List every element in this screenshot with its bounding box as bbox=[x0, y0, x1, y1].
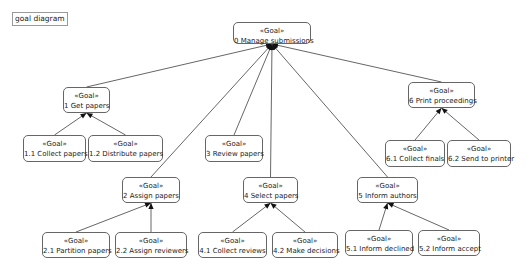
goal-node-2-1[interactable]: «Goal»2.1 Partition papers bbox=[42, 232, 110, 258]
goal-node-6-1[interactable]: «Goal»6.1 Collect finals bbox=[385, 140, 445, 167]
edge-3-to-0 bbox=[234, 44, 272, 135]
goal-node-2-2[interactable]: «Goal»2.2 Assign reviewers bbox=[115, 232, 187, 258]
goal-stereotype: «Goal» bbox=[419, 234, 479, 244]
goal-label: 2.1 Partition papers bbox=[43, 246, 109, 256]
goal-stereotype: «Goal» bbox=[273, 236, 337, 246]
goal-diagram-canvas: goal diagram «Goal»0 Manage submissions«… bbox=[0, 0, 527, 271]
goal-label: 4.1 Collect reviews bbox=[199, 246, 266, 256]
goal-stereotype: «Goal» bbox=[89, 139, 162, 149]
goal-stereotype: «Goal» bbox=[199, 236, 266, 246]
goal-stereotype: «Goal» bbox=[64, 91, 109, 101]
goal-label: 1.1 Collect papers bbox=[24, 149, 85, 159]
goal-stereotype: «Goal» bbox=[448, 144, 510, 154]
edge-4.1-to-4 bbox=[233, 203, 271, 232]
goal-stereotype: «Goal» bbox=[409, 86, 474, 96]
goal-node-2[interactable]: «Goal»2 Assign papers bbox=[122, 177, 180, 203]
goal-stereotype: «Goal» bbox=[43, 236, 109, 246]
edge-6-to-0 bbox=[272, 44, 442, 82]
goal-label: 1 Get papers bbox=[64, 101, 109, 111]
goal-stereotype: «Goal» bbox=[346, 234, 412, 244]
goal-node-1-1[interactable]: «Goal»1.1 Collect papers bbox=[23, 135, 86, 162]
goal-stereotype: «Goal» bbox=[358, 181, 417, 191]
goal-node-6[interactable]: «Goal»6 Print proceedings bbox=[408, 82, 475, 108]
goal-label: 5.1 Inform declined bbox=[346, 244, 412, 254]
edge-6.2-to-6 bbox=[442, 108, 480, 140]
goal-label: 2.2 Assign reviewers bbox=[116, 246, 186, 256]
goal-label: 1.2 Distribute papers bbox=[89, 149, 162, 159]
goal-node-5[interactable]: «Goal»5 Inform authors bbox=[357, 177, 418, 203]
goal-label: 0 Manage submissions bbox=[234, 36, 310, 46]
goal-stereotype: «Goal» bbox=[386, 144, 444, 154]
goal-label: 2 Assign papers bbox=[123, 191, 179, 201]
edge-4.2-to-4 bbox=[271, 203, 306, 232]
goal-stereotype: «Goal» bbox=[234, 26, 310, 36]
goal-label: 5.2 Inform accept bbox=[419, 244, 479, 254]
goal-stereotype: «Goal» bbox=[24, 139, 85, 149]
arrowhead-icon bbox=[80, 113, 86, 119]
diagram-title: goal diagram bbox=[12, 12, 68, 26]
goal-node-3[interactable]: «Goal»3 Review papers bbox=[205, 135, 263, 162]
goal-stereotype: «Goal» bbox=[123, 181, 179, 191]
edge-5.2-to-5 bbox=[388, 203, 450, 230]
goal-label: 3 Review papers bbox=[206, 149, 262, 159]
edge-1.2-to-1 bbox=[87, 113, 126, 135]
arrowhead-icon bbox=[383, 203, 388, 210]
arrowhead-icon bbox=[264, 203, 270, 209]
goal-label: 6.1 Collect finals bbox=[386, 154, 444, 164]
goal-label: 4.2 Make decisions bbox=[273, 246, 337, 256]
goal-node-6-2[interactable]: «Goal»6.2 Send to printer bbox=[447, 140, 511, 167]
goal-node-4[interactable]: «Goal»4 Select papers bbox=[243, 177, 298, 203]
goal-stereotype: «Goal» bbox=[116, 236, 186, 246]
goal-label: 5 Inform authors bbox=[358, 191, 417, 201]
goal-node-0[interactable]: «Goal»0 Manage submissions bbox=[233, 22, 311, 44]
goal-label: 6.2 Send to printer bbox=[448, 154, 510, 164]
goal-node-4-1[interactable]: «Goal»4.1 Collect reviews bbox=[198, 232, 267, 258]
goal-label: 4 Select papers bbox=[244, 191, 297, 201]
goal-node-1-2[interactable]: «Goal»1.2 Distribute papers bbox=[88, 135, 163, 162]
edge-5-to-0 bbox=[272, 44, 388, 177]
edge-4-to-0 bbox=[271, 44, 273, 177]
goal-node-1[interactable]: «Goal»1 Get papers bbox=[63, 87, 110, 113]
goal-label: 6 Print proceedings bbox=[409, 96, 474, 106]
edge-2.1-to-2 bbox=[76, 203, 151, 232]
edge-6.1-to-6 bbox=[415, 108, 442, 140]
edge-1-to-0 bbox=[87, 44, 273, 87]
goal-stereotype: «Goal» bbox=[206, 139, 262, 149]
goal-stereotype: «Goal» bbox=[244, 181, 297, 191]
goal-node-5-2[interactable]: «Goal»5.2 Inform accept bbox=[418, 230, 480, 256]
goal-node-4-2[interactable]: «Goal»4.2 Make decisions bbox=[272, 232, 338, 258]
goal-node-5-1[interactable]: «Goal»5.1 Inform declined bbox=[345, 230, 413, 256]
